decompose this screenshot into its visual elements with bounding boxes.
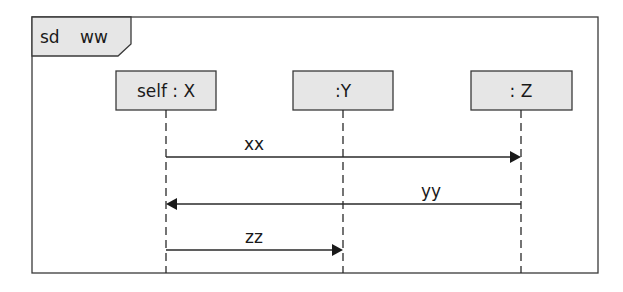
message-label-xx: xx (244, 134, 264, 154)
message-label-yy: yy (421, 181, 441, 201)
lifeline-label-x: self : X (137, 81, 196, 101)
lifeline-z: : Z (471, 71, 572, 273)
lifeline-label-z: : Z (510, 81, 533, 101)
message-zz[interactable]: zz (166, 227, 343, 256)
sequence-diagram: sd ww self : X :Y : Z xx yy zz (0, 0, 623, 292)
arrowhead-left-icon (166, 198, 177, 210)
arrowhead-right-icon (332, 244, 343, 256)
frame-kind: sd (40, 27, 60, 47)
lifeline-x: self : X (116, 71, 216, 273)
message-label-zz: zz (245, 227, 263, 247)
lifeline-label-y: :Y (335, 81, 352, 101)
frame-name: ww (80, 27, 108, 47)
arrowhead-right-icon (510, 151, 521, 163)
lifeline-y: :Y (293, 71, 393, 273)
